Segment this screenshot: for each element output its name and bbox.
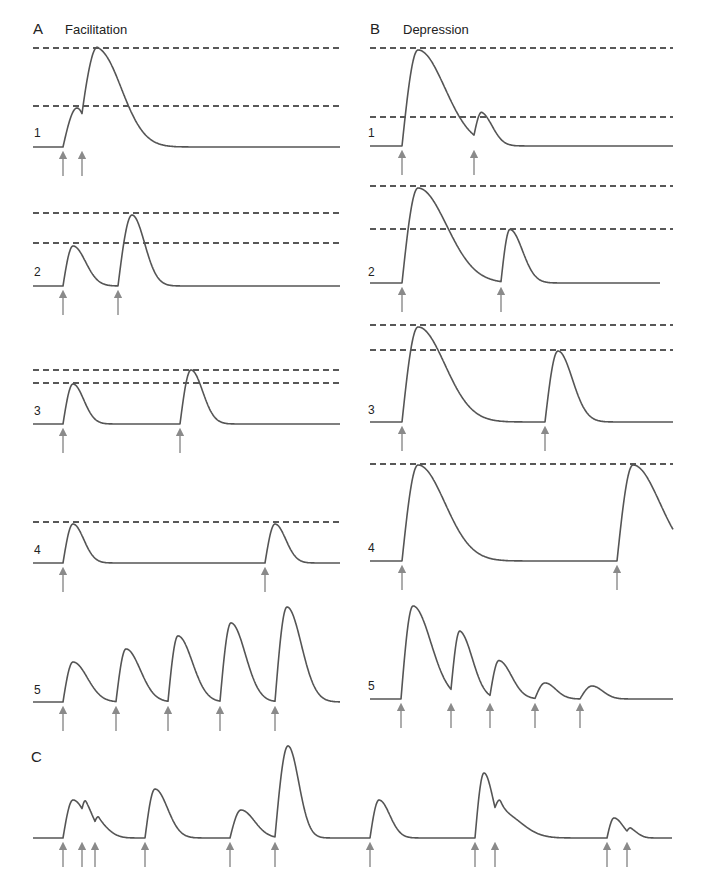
trace-b4-number: 4	[368, 541, 375, 555]
stimulus-arrows	[63, 154, 627, 867]
epsp-trace-a5	[33, 607, 340, 702]
epsp-traces	[33, 47, 673, 838]
epsp-trace-b1	[370, 50, 673, 146]
epsp-trace-b5	[370, 606, 673, 699]
trace-a4-number: 4	[34, 543, 41, 557]
epsp-trace-c	[33, 746, 672, 838]
trace-a5-number: 5	[34, 683, 41, 697]
epsp-trace-a3	[33, 370, 340, 424]
panel-b-title: Depression	[403, 22, 469, 37]
epsp-trace-a2	[33, 215, 340, 286]
trace-a2-number: 2	[34, 265, 41, 279]
trace-a3-number: 3	[34, 404, 41, 418]
synaptic-plasticity-figure	[0, 0, 704, 892]
trace-b2-number: 2	[368, 265, 375, 279]
panel-a-title: Facilitation	[65, 22, 127, 37]
panel-b-letter: B	[370, 20, 380, 37]
trace-b1-number: 1	[368, 126, 375, 140]
panel-c-letter: C	[31, 748, 42, 765]
panel-a-letter: A	[33, 20, 43, 37]
epsp-trace-b2	[370, 188, 660, 283]
epsp-trace-a1	[33, 47, 340, 147]
threshold-dashed-lines	[33, 48, 673, 522]
trace-b5-number: 5	[368, 679, 375, 693]
epsp-trace-b4	[370, 465, 673, 561]
trace-a1-number: 1	[34, 126, 41, 140]
trace-b3-number: 3	[368, 403, 375, 417]
epsp-trace-b3	[370, 327, 673, 422]
epsp-trace-a4	[33, 524, 340, 563]
